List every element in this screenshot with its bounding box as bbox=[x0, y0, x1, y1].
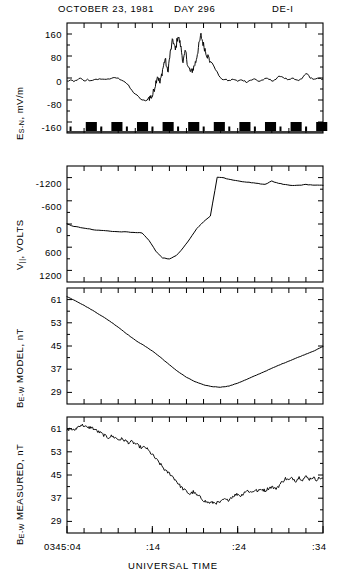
figure-container: OCTOBER 23, 1981 DAY 296 DE-I ES-N, mV/m… bbox=[0, 0, 340, 577]
trace-b-measured bbox=[67, 424, 323, 504]
marker-block-5 bbox=[214, 122, 225, 131]
marker-tick-0 bbox=[70, 127, 72, 132]
marker-tick-2 bbox=[126, 127, 128, 132]
marker-tick-5 bbox=[203, 127, 205, 132]
marker-tick-8 bbox=[279, 127, 281, 132]
marker-tick-3 bbox=[151, 127, 153, 132]
marker-block-8 bbox=[291, 122, 302, 131]
marker-block-3 bbox=[163, 122, 174, 131]
marker-tick-9 bbox=[305, 127, 307, 132]
b-model-frame bbox=[67, 288, 323, 404]
panel-es-n bbox=[67, 23, 327, 133]
marker-block-0 bbox=[86, 122, 97, 131]
trace-es-n bbox=[67, 33, 323, 101]
marker-block-7 bbox=[265, 122, 276, 131]
trace-v-parallel bbox=[67, 177, 323, 259]
marker-tick-1 bbox=[100, 127, 102, 132]
marker-tick-7 bbox=[254, 127, 256, 132]
trace-b-model bbox=[67, 297, 323, 388]
marker-block-9 bbox=[316, 122, 327, 131]
marker-tick-6 bbox=[228, 127, 230, 132]
marker-block-4 bbox=[188, 122, 199, 131]
panel-v-parallel bbox=[67, 166, 323, 282]
panel-b-model bbox=[67, 288, 323, 404]
panel-b-measured bbox=[67, 417, 323, 533]
marker-tick-4 bbox=[177, 127, 179, 132]
marker-block-1 bbox=[111, 122, 122, 131]
marker-block-2 bbox=[137, 122, 148, 131]
marker-block-6 bbox=[239, 122, 250, 131]
plot-canvas bbox=[0, 0, 340, 577]
v-par-frame bbox=[67, 166, 323, 282]
